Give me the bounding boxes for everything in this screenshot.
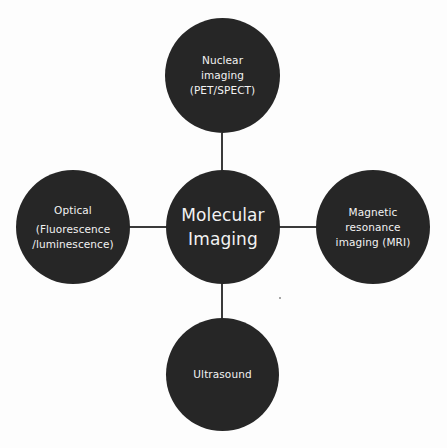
node-label: Molecular Imaging — [181, 203, 264, 251]
stray-dot — [279, 297, 281, 299]
label-line: resonance — [336, 220, 411, 235]
node-label: Magnetic resonance imaging (MRI) — [336, 205, 411, 250]
label-line: (PET/SPECT) — [190, 83, 256, 98]
label-line: Optical — [32, 203, 113, 218]
node-label: Nuclear imaging (PET/SPECT) — [190, 53, 256, 98]
connector-center-to-right — [279, 226, 317, 228]
connector-center-to-bottom — [221, 283, 223, 319]
label-line: imaging (MRI) — [336, 235, 411, 250]
label-line: Nuclear — [190, 53, 256, 68]
node-molecular-imaging: Molecular Imaging — [166, 170, 280, 284]
label-line: Molecular — [181, 203, 264, 227]
node-label: Ultrasound — [193, 367, 251, 382]
connector-center-to-left — [129, 226, 167, 228]
node-mri: Magnetic resonance imaging (MRI) — [316, 170, 430, 284]
node-nuclear-imaging: Nuclear imaging (PET/SPECT) — [165, 18, 280, 133]
label-line: imaging — [190, 68, 256, 83]
label-line: /luminescence) — [32, 237, 113, 252]
node-label: Optical (Fluorescence /luminescence) — [32, 203, 113, 252]
node-ultrasound: Ultrasound — [166, 318, 279, 431]
node-optical-imaging: Optical (Fluorescence /luminescence) — [16, 170, 130, 284]
label-line: Magnetic — [336, 205, 411, 220]
label-line: Imaging — [181, 227, 264, 251]
label-line: (Fluorescence — [32, 222, 113, 237]
connector-center-to-top — [221, 133, 223, 171]
label-line: Ultrasound — [193, 367, 251, 382]
